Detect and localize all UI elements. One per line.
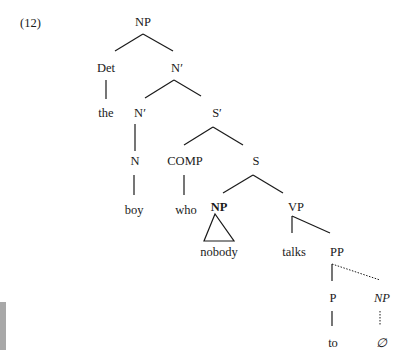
node-nbar-top: N′ [171,62,183,75]
page-edge-marker [0,302,6,350]
node-vp: VP [288,201,304,214]
leaf-boy: boy [125,204,144,217]
leaf-talks: talks [282,246,306,259]
node-np-subject: NP [211,201,228,214]
node-s: S [253,155,260,168]
node-sbar: S′ [212,107,222,120]
leaf-empty-set: ∅ [376,337,387,350]
node-np-root: NP [135,16,151,29]
leaf-the: the [98,107,113,120]
node-comp: COMP [167,155,202,168]
node-nbar-low: N′ [134,107,146,120]
tree-branches [0,0,406,360]
leaf-nobody: nobody [200,246,238,259]
node-n: N [130,155,139,168]
leaf-who: who [175,204,197,217]
leaf-to: to [328,337,338,350]
node-np-gap: NP [374,292,390,305]
node-p: P [330,292,337,305]
node-det: Det [97,62,115,75]
node-pp: PP [330,246,344,259]
